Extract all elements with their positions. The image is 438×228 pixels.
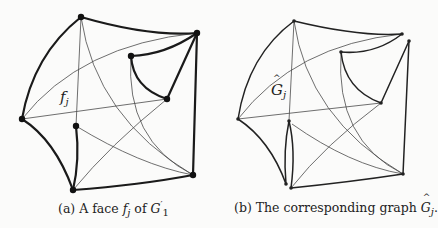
vertex (379, 101, 383, 105)
edge-thick (22, 119, 73, 190)
vertex (407, 39, 411, 43)
edge-thick (22, 17, 81, 119)
edge-thin (238, 103, 381, 119)
vertex (164, 96, 170, 102)
edge-thin (76, 126, 193, 175)
edge-thin (238, 34, 402, 119)
panel-b-graph (236, 19, 411, 190)
vertex (401, 172, 405, 176)
vertex (292, 19, 296, 23)
edge-boundary (285, 121, 289, 184)
caption-a: (a) A face fj of G′1 (58, 200, 169, 218)
vertex (287, 119, 291, 123)
edge-thin (22, 33, 197, 119)
edge-thin (81, 17, 193, 175)
edge-boundary (341, 52, 381, 103)
edge-thin (291, 103, 381, 188)
edge-thin (292, 124, 403, 174)
edge-thick (73, 126, 77, 190)
edge-boundary (341, 34, 402, 52)
edge-boundary (403, 41, 409, 174)
vertex (70, 187, 76, 193)
vertex (194, 30, 200, 36)
face-label-a: fj (60, 88, 69, 107)
vertex (289, 186, 293, 190)
edge-boundary (238, 119, 286, 184)
edge-boundary (381, 41, 409, 103)
vertex (236, 117, 240, 121)
vertex (19, 116, 25, 122)
edge-thick (131, 56, 167, 99)
edge-boundary (291, 174, 403, 188)
caption-b: (b) The corresponding graph Gj. (234, 200, 438, 217)
edge-thin (341, 52, 403, 174)
panel-a-graph (19, 14, 200, 193)
edge-thin (73, 99, 167, 190)
edge-thin (22, 99, 167, 119)
vertex (78, 14, 84, 20)
vertex (400, 32, 404, 36)
edge-thick (73, 175, 193, 190)
vertex (190, 172, 196, 178)
edge-boundary (294, 21, 402, 34)
edge-thin (131, 56, 193, 175)
edge-thick (193, 33, 197, 175)
vertex (73, 123, 79, 129)
edge-thin (76, 17, 81, 126)
vertex (339, 50, 343, 54)
edge-thick (81, 17, 197, 34)
edge-boundary (289, 121, 293, 188)
edge-boundary (238, 21, 294, 119)
graph-label-b: Gj (271, 81, 286, 100)
vertex (128, 53, 134, 59)
vertex (284, 182, 288, 186)
